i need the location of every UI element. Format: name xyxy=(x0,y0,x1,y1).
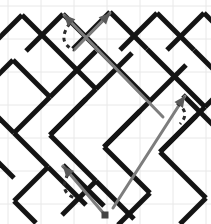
pattern-canvas xyxy=(0,0,211,224)
herringbone-scene xyxy=(0,0,211,224)
gesture-start-marker[interactable] xyxy=(102,212,109,219)
